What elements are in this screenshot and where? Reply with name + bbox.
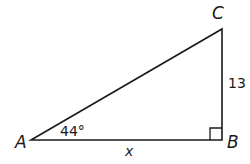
vertex-b-label: B bbox=[227, 132, 239, 152]
side-bc-length: 13 bbox=[228, 75, 246, 91]
vertex-c-label: C bbox=[212, 3, 224, 23]
triangle-diagram: A B C 13 x 44° bbox=[0, 0, 250, 164]
angle-a-measure: 44° bbox=[60, 123, 85, 139]
right-angle-marker bbox=[210, 128, 222, 140]
vertex-a-label: A bbox=[14, 132, 27, 152]
side-ab-unknown: x bbox=[124, 143, 134, 159]
